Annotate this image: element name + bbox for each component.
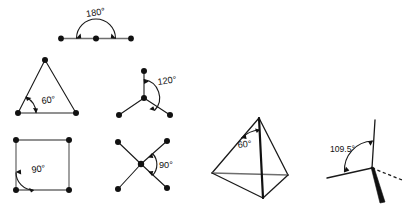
trigonal-vertex-top bbox=[141, 68, 147, 74]
cross-vertex-lower-right bbox=[164, 185, 170, 191]
triangle-angle-label: 60° bbox=[41, 94, 56, 106]
triangle-vertex-apex bbox=[42, 57, 48, 63]
tetra-angle-label: 60° bbox=[237, 139, 252, 150]
linear-vertex-center bbox=[93, 36, 99, 42]
triangle-vertex-bottom-left bbox=[15, 110, 21, 116]
square-vertex-bottom-left bbox=[13, 187, 19, 193]
square-vertex-bottom-right bbox=[66, 187, 72, 193]
geometry-diagram: 180° 60° 120° bbox=[0, 0, 407, 206]
canvas-background bbox=[0, 0, 407, 206]
figure-canvas: 180° 60° 120° bbox=[0, 0, 407, 206]
trigonal-vertex-lower-left bbox=[116, 112, 122, 118]
square-vertex-top-left bbox=[13, 137, 19, 143]
trigonal-vertex-lower-right bbox=[167, 112, 173, 118]
trigonal-vertex-center bbox=[141, 95, 147, 101]
cross-vertex-upper-left bbox=[115, 139, 121, 145]
cross-vertex-lower-left bbox=[115, 186, 121, 192]
tetrahedral-angle-label: 109.5° bbox=[330, 144, 355, 154]
square-angle-label: 90° bbox=[31, 163, 46, 175]
linear-vertex-right bbox=[128, 36, 134, 42]
triangle-vertex-bottom-right bbox=[73, 110, 79, 116]
cross-vertex-center bbox=[138, 161, 144, 167]
cross-angle-label: 90° bbox=[159, 160, 173, 170]
cross-vertex-upper-right bbox=[164, 138, 170, 144]
square-vertex-top-right bbox=[66, 137, 72, 143]
linear-vertex-left bbox=[58, 36, 64, 42]
